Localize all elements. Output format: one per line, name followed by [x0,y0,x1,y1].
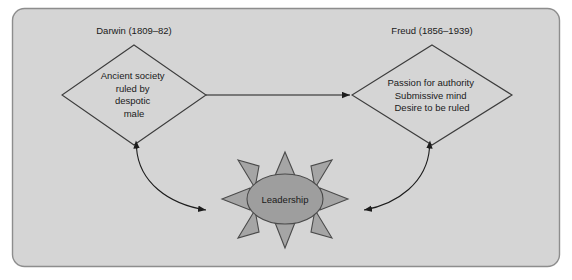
diagram-canvas: Darwin (1809–82) Ancient society ruled b… [0,0,572,280]
darwin-caption: Darwin (1809–82) [96,25,172,36]
diagram-root: Darwin (1809–82) Ancient society ruled b… [0,0,572,280]
leadership-label: Leadership [261,194,308,205]
passion-authority-diamond-label: Passion for authority Submissive mind De… [387,77,476,113]
freud-caption: Freud (1856–1939) [391,25,472,36]
